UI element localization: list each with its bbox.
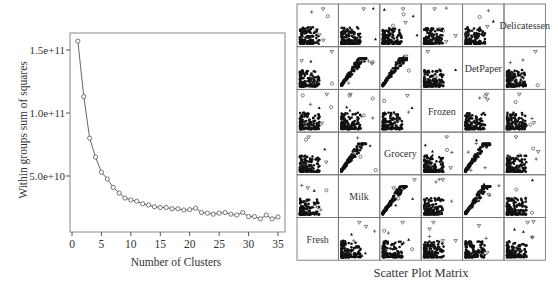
point-dense — [318, 115, 321, 118]
point-dense — [341, 121, 344, 124]
point-dense — [469, 206, 472, 209]
point-dense — [484, 42, 487, 45]
point-dense — [303, 84, 306, 87]
point-dense — [314, 202, 317, 205]
point-dense — [315, 213, 318, 216]
cell-frame — [504, 89, 545, 132]
point-dense — [481, 42, 484, 45]
point-dense — [310, 171, 313, 174]
point-dense — [387, 42, 390, 45]
point-dense — [506, 213, 509, 216]
point-dense — [340, 244, 343, 247]
point-dense — [508, 162, 511, 165]
point-dense — [340, 83, 343, 86]
point-dense — [428, 79, 431, 82]
point-dense — [392, 34, 395, 37]
point-dense — [465, 42, 468, 45]
point-dense — [468, 120, 471, 123]
point-dense — [393, 246, 396, 249]
point-dense — [352, 66, 355, 69]
point-dense — [423, 208, 426, 211]
point-dense — [359, 57, 362, 60]
point-dense — [384, 207, 387, 210]
point-dense — [301, 170, 304, 173]
cell-frame — [338, 89, 379, 132]
point-dense — [506, 244, 509, 247]
point-dense — [301, 41, 304, 44]
point-dense — [473, 155, 476, 158]
point-dense — [523, 213, 526, 216]
point-dense — [306, 116, 309, 119]
point-dense — [465, 39, 468, 42]
point-dense — [352, 127, 355, 130]
point-dense — [469, 117, 472, 120]
point-dense — [523, 170, 526, 173]
point-dense — [342, 82, 345, 85]
point-dense — [340, 36, 343, 39]
point-dense — [352, 41, 355, 44]
point-dense — [390, 200, 393, 203]
point-dense — [520, 125, 523, 128]
point-dense — [508, 84, 511, 87]
point-dense — [299, 212, 302, 215]
point-dense — [523, 124, 526, 127]
data-point — [170, 207, 174, 211]
point-dense — [346, 248, 349, 251]
point-dense — [434, 171, 437, 174]
point-dense — [465, 167, 468, 170]
point-dense — [425, 212, 428, 215]
point-dense — [348, 42, 351, 45]
point-dense — [300, 159, 303, 162]
point-dense — [507, 124, 510, 127]
point-dense — [383, 253, 386, 256]
point-dense — [524, 85, 527, 88]
point-dense — [435, 42, 438, 45]
point-dense — [511, 75, 514, 78]
point-dense — [481, 250, 484, 253]
point-dense — [341, 168, 344, 171]
point-dense — [440, 167, 443, 170]
point-triangle — [318, 34, 322, 37]
point-dense — [310, 72, 313, 75]
point-dense — [301, 116, 304, 119]
x-tick-label: 0 — [69, 238, 75, 250]
data-point — [246, 214, 250, 218]
point-plus — [487, 9, 491, 13]
point-dense — [519, 204, 522, 207]
cell-frame — [380, 132, 421, 175]
point-dense — [305, 31, 308, 34]
point-circle — [438, 28, 441, 31]
point-dense — [345, 29, 348, 32]
point-dense — [515, 209, 518, 212]
point-dense — [467, 125, 470, 128]
point-dense — [523, 82, 526, 85]
point-dense — [511, 168, 514, 171]
point-dense — [423, 82, 426, 85]
point-dense — [304, 83, 307, 86]
point-dense — [507, 255, 510, 258]
point-dense — [436, 35, 439, 38]
point-dense — [341, 127, 344, 130]
point-dense — [386, 78, 389, 81]
point-dense — [441, 249, 444, 252]
point-dense — [440, 198, 443, 201]
point-dense — [350, 255, 353, 258]
point-dense — [299, 211, 302, 214]
point-dense — [317, 75, 320, 78]
point-dense — [434, 30, 437, 33]
point-dense — [434, 166, 437, 169]
point-dense — [470, 42, 473, 45]
point-dense — [357, 34, 360, 37]
point-dense — [340, 121, 343, 124]
point-dense — [349, 72, 352, 75]
point-dense — [506, 211, 509, 214]
point-dense — [486, 185, 489, 188]
point-dense — [464, 169, 467, 172]
point-dense — [424, 83, 427, 86]
point-dense — [513, 256, 516, 259]
point-dense — [299, 77, 302, 80]
point-dense — [299, 30, 302, 33]
point-dense — [314, 84, 317, 87]
point-dense — [509, 212, 512, 215]
point-dense — [307, 35, 310, 38]
